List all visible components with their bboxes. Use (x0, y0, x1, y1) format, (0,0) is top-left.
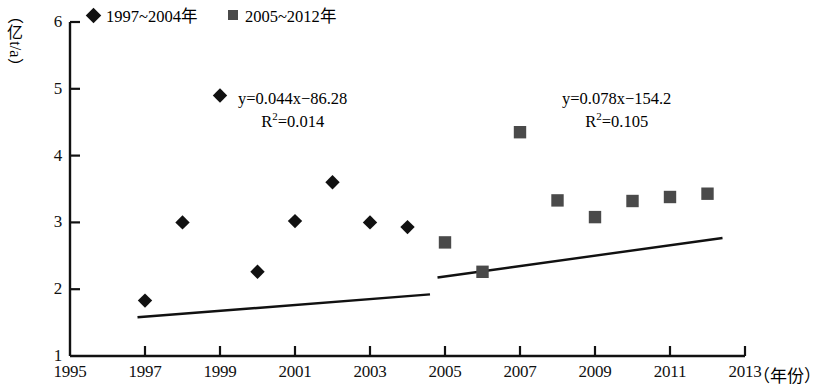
scatter-chart: （ 亿 t/a ） （年份） 123456 199519971999200120… (0, 0, 830, 390)
x-tick-label: 2009 (578, 362, 611, 382)
data-point-marker (551, 194, 563, 206)
data-point-marker (589, 211, 601, 223)
x-tick-label: 1995 (53, 362, 86, 382)
legend-item-series-1: 1997~2004年 (88, 3, 198, 27)
trendline-series-1 (138, 294, 431, 317)
data-point-marker (626, 195, 638, 207)
x-tick-label: 1999 (203, 362, 236, 382)
y-unit-paren-close: ） (7, 53, 24, 79)
y-unit-paren-open: （ (7, 3, 24, 29)
data-point-marker (514, 126, 526, 138)
x-tick-label: 2005 (428, 362, 461, 382)
y-tick-label: 5 (40, 79, 62, 99)
x-axis-ticks (145, 346, 745, 356)
data-point-marker (400, 220, 414, 234)
legend-label-series-2: 2005~2012年 (245, 3, 337, 27)
x-axis-unit-label: （年份） (753, 362, 821, 387)
equation-line-series-1: y=0.044x−86.28 (238, 89, 347, 108)
x-tick-label: 1997 (128, 362, 161, 382)
y-tick-label: 4 (40, 146, 62, 166)
square-marker-icon (228, 10, 238, 20)
y-tick-label: 6 (40, 12, 62, 32)
data-point-marker (701, 188, 713, 200)
y-tick-label: 3 (40, 212, 62, 232)
trendline-equation-series-1: y=0.044x−86.28 R2=0.014 (238, 88, 347, 132)
r-squared-prefix-series-2: R (585, 112, 596, 131)
x-tick-label: 2013 (728, 362, 761, 382)
y-axis-ticks (70, 22, 80, 289)
data-point-marker (213, 88, 227, 102)
axis-lines (70, 22, 745, 356)
r-squared-series-2: R2=0.105 (562, 109, 671, 132)
legend-label-series-1: 1997~2004年 (106, 3, 198, 27)
equation-line-series-2: y=0.078x−154.2 (562, 89, 671, 108)
trendline-equation-series-2: y=0.078x−154.2 R2=0.105 (562, 88, 671, 132)
diamond-marker-icon (86, 7, 102, 23)
data-point-marker (476, 266, 488, 278)
r-squared-value-series-2: =0.105 (602, 112, 648, 131)
x-tick-label: 2001 (278, 362, 311, 382)
data-point-marker (175, 215, 189, 229)
x-tick-label: 2007 (503, 362, 536, 382)
y-axis-unit-label: （ 亿 t/a ） (2, 8, 28, 75)
legend-item-series-2: 2005~2012年 (228, 3, 337, 27)
r-squared-series-1: R2=0.014 (238, 109, 347, 132)
data-point-marker (363, 215, 377, 229)
data-point-marker (250, 265, 264, 279)
data-point-marker (439, 236, 451, 248)
chart-plot-area (0, 0, 830, 390)
trendlines (138, 238, 723, 317)
data-point-marker (664, 191, 676, 203)
x-tick-label: 2003 (353, 362, 386, 382)
r-squared-prefix-series-1: R (261, 112, 272, 131)
data-point-marker (288, 214, 302, 228)
x-tick-label: 2011 (654, 362, 687, 382)
data-point-marker (325, 175, 339, 189)
data-point-marker (138, 293, 152, 307)
r-squared-value-series-1: =0.014 (278, 112, 324, 131)
chart-legend: 1997~2004年 2005~2012年 (88, 3, 337, 27)
y-tick-label: 2 (40, 279, 62, 299)
